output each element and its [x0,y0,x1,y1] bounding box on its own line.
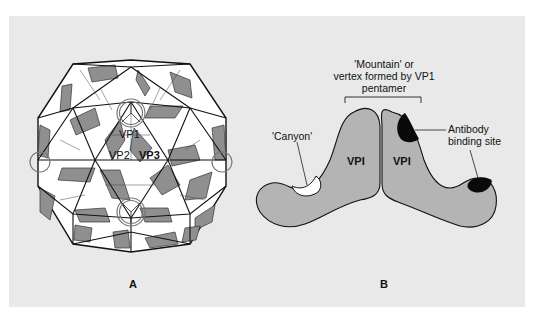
figure-letter-b: B [380,278,388,290]
figure-letter-a: A [129,278,137,290]
canyon-label: 'Canyon' [272,130,312,142]
capsid-diagram [0,0,546,321]
vpi-right-label: VPI [393,155,411,167]
vp3-label: VP3 [139,149,160,161]
antibody-leader-bottom [470,150,478,178]
vpi-left-label: VPI [347,155,365,167]
mountain-label-line3: pentamer [329,82,439,94]
vp1-label: VP1 [119,128,140,140]
mountain-label-line1: 'Mountain' or [329,58,439,70]
antibody-label-line1: Antibody [448,123,489,135]
canyon-leader [297,142,307,185]
mountain-label-line2: vertex formed by VP1 [329,70,439,82]
antibody-label-line2: binding site [448,135,501,147]
vpi-left-shape [256,108,380,226]
canyon-shape [292,176,321,196]
vp2-label: VP2 [109,149,130,161]
mountain-bracket [345,97,421,103]
